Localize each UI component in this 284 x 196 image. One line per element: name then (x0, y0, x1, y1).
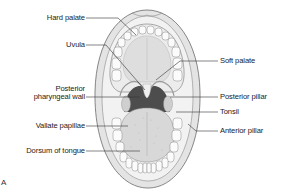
label-uvula: Uvula (62, 41, 85, 49)
tonsil-right (164, 96, 173, 112)
tonsil-left (122, 96, 131, 112)
figure-letter: A (1, 178, 6, 187)
label-posterior-pillar: Posterior pillar (220, 93, 267, 101)
label-posterior-pharyngeal-wall-2: pharyngeal wall (25, 93, 85, 101)
label-anterior-pillar: Anterior pillar (220, 127, 263, 135)
tongue (120, 108, 174, 162)
oral-cavity-diagram: A Hard palateUvulaPosteriorpharyngeal wa… (0, 0, 284, 196)
label-hard-palate: Hard palate (29, 14, 85, 22)
label-soft-palate: Soft palate (220, 57, 255, 65)
label-vallate-papillae: Vallate papillae (27, 122, 85, 130)
label-dorsum-of-tongue: Dorsum of tongue (14, 147, 85, 155)
label-tonsil: Tonsil (220, 108, 239, 116)
